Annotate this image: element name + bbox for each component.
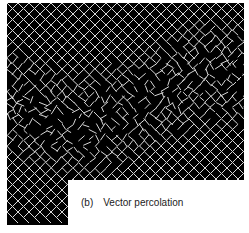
lattice-bond (183, 113, 188, 120)
lattice-bond (12, 114, 20, 118)
lattice-bond (35, 212, 41, 218)
lattice-bond (24, 196, 30, 202)
lattice-bond (233, 174, 239, 180)
lattice-bond (177, 36, 182, 42)
lattice-bond (28, 79, 34, 86)
lattice-bond (29, 207, 35, 213)
lattice-bond (40, 185, 46, 191)
lattice-bond (61, 101, 68, 107)
lattice-bond (228, 75, 231, 81)
lattice-bond (90, 69, 95, 75)
lattice-bond (156, 130, 161, 136)
lattice-bond (13, 163, 19, 169)
lattice-bond (73, 25, 79, 31)
lattice-bond (200, 135, 206, 141)
lattice-bond (177, 25, 182, 30)
lattice-bond (194, 130, 200, 136)
lattice-bond (46, 218, 52, 224)
lattice-bond (178, 168, 184, 174)
lattice-bond (216, 174, 222, 180)
lattice-bond (183, 98, 188, 102)
lattice-bond (95, 3, 101, 9)
lattice-bond (227, 9, 233, 15)
lattice-bond (101, 42, 107, 48)
lattice-bond (7, 36, 13, 42)
lattice-bond (33, 119, 41, 125)
lattice-bond (243, 91, 244, 97)
lattice-bond (156, 20, 162, 26)
lattice-bond (46, 69, 52, 75)
lattice-bond (46, 157, 51, 162)
lattice-bond (40, 207, 46, 213)
lattice-bond (172, 9, 178, 15)
lattice-bond (145, 86, 148, 93)
lattice-bond (106, 80, 113, 85)
lattice-bond (172, 135, 177, 141)
lattice-bond (57, 97, 60, 100)
lattice-bond (172, 103, 175, 109)
lattice-bond (194, 163, 200, 169)
lattice-bond (189, 135, 195, 141)
lattice-bond (84, 173, 90, 179)
lattice-bond (118, 96, 125, 102)
lattice-bond (227, 95, 233, 102)
lattice-bond (134, 157, 140, 163)
lattice-bond (18, 3, 24, 9)
lattice-bond (178, 135, 183, 141)
lattice-bond (183, 168, 189, 174)
lattice-bond (106, 136, 112, 142)
lattice-bond (145, 53, 150, 58)
lattice-bond (161, 14, 167, 20)
lattice-bond (74, 119, 76, 124)
lattice-bond (150, 146, 155, 151)
lattice-bond (134, 108, 136, 112)
lattice-bond (7, 152, 13, 158)
lattice-bond (244, 146, 245, 152)
lattice-bond (40, 69, 45, 74)
lattice-bond (95, 69, 101, 74)
lattice-bond (134, 20, 140, 26)
lattice-bond (24, 9, 30, 15)
lattice-bond (189, 119, 195, 124)
lattice-bond (134, 140, 138, 146)
lattice-bond (123, 20, 129, 26)
lattice-bond (117, 152, 123, 158)
lattice-bond (68, 74, 73, 80)
lattice-bond (90, 25, 96, 31)
lattice-bond (51, 142, 57, 146)
lattice-bond (128, 58, 134, 64)
lattice-bond (29, 47, 35, 53)
lattice-bond (216, 152, 222, 158)
lattice-bond (150, 157, 156, 163)
lattice-bond (24, 174, 30, 180)
lattice-bond (183, 174, 189, 180)
lattice-bond (67, 168, 72, 173)
lattice-bond (79, 9, 85, 15)
lattice-bond (95, 162, 101, 168)
lattice-bond (73, 91, 78, 96)
lattice-bond (112, 42, 118, 48)
lattice-bond (106, 25, 112, 31)
lattice-bond (106, 174, 112, 180)
lattice-bond (84, 3, 90, 9)
lattice-bond (7, 146, 12, 152)
lattice-bond (62, 75, 68, 80)
lattice-bond (183, 46, 188, 51)
lattice-bond (101, 53, 107, 59)
lattice-bond (233, 24, 238, 30)
lattice-bond (172, 146, 178, 152)
lattice-bond (227, 124, 233, 129)
lattice-bond (205, 152, 211, 158)
lattice-bond (57, 156, 62, 162)
lattice-bond (161, 36, 166, 42)
lattice-bond (56, 136, 62, 140)
lattice-bond (150, 64, 157, 69)
lattice-bond (161, 129, 167, 135)
lattice-bond (40, 174, 46, 180)
lattice-bond (73, 168, 79, 174)
lattice-bond (189, 103, 193, 108)
lattice-bond (18, 190, 24, 196)
lattice-bond (29, 201, 35, 207)
lattice-bond (239, 113, 244, 118)
lattice-bond (7, 168, 13, 174)
